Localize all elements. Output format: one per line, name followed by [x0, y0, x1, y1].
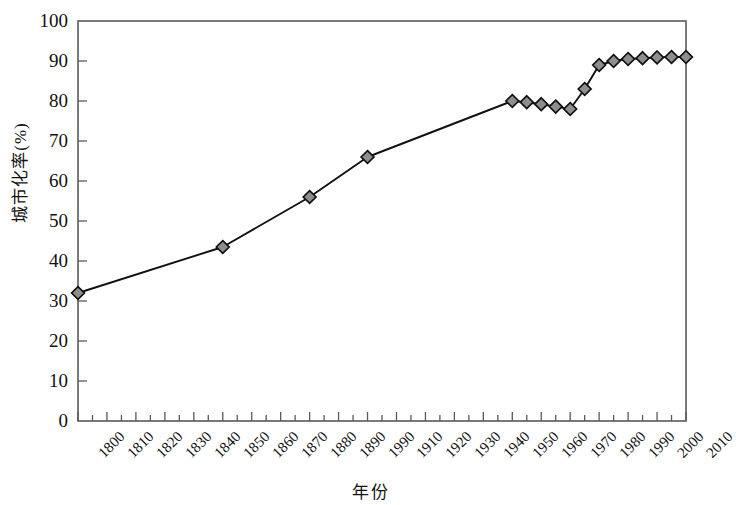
y-tick-label: 50 [22, 211, 68, 230]
y-tick-label: 80 [22, 91, 68, 110]
plot-frame [78, 21, 686, 421]
y-tick-label: 90 [22, 51, 68, 70]
y-tick-label: 0 [22, 411, 68, 430]
y-tick-label: 100 [22, 11, 68, 30]
x-axis-title-text: 年份 [352, 483, 390, 502]
y-tick-label: 20 [22, 331, 68, 350]
y-tick-label: 10 [22, 371, 68, 390]
y-tick-label: 60 [22, 171, 68, 190]
y-tick-label: 70 [22, 131, 68, 150]
y-tick-label: 30 [22, 291, 68, 310]
x-tick-label: 2010 [704, 429, 736, 461]
x-axis-title: 年份 [0, 478, 706, 503]
y-tick-label: 40 [22, 251, 68, 270]
